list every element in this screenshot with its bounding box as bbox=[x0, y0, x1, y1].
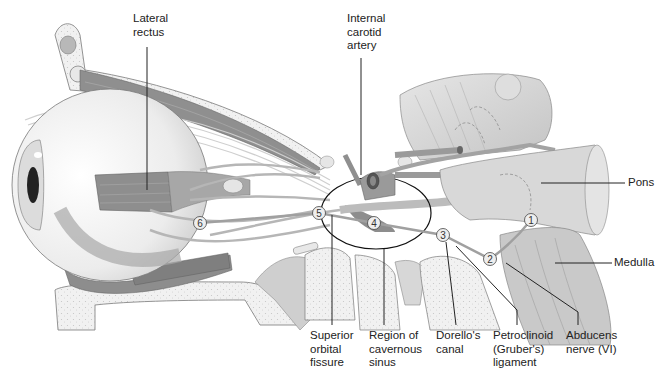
sella-bone bbox=[293, 242, 500, 330]
label-internal-carotid-artery: Internal carotid artery bbox=[347, 12, 385, 53]
marker-6: 6 bbox=[194, 217, 207, 230]
diagram-illustration: 1 2 3 4 5 6 bbox=[0, 0, 667, 378]
svg-text:4: 4 bbox=[371, 218, 377, 229]
label-medulla: Medulla bbox=[614, 256, 654, 270]
marker-3: 3 bbox=[437, 229, 450, 242]
svg-text:1: 1 bbox=[528, 215, 534, 226]
label-petroclinoid-ligament: Petroclinoid (Gruber's) ligament bbox=[493, 329, 553, 370]
label-region-of-cavernous-sinus: Region of cavernous sinus bbox=[369, 329, 422, 370]
svg-text:2: 2 bbox=[487, 254, 493, 265]
svg-text:5: 5 bbox=[316, 208, 322, 219]
svg-text:6: 6 bbox=[197, 218, 203, 229]
label-lateral-rectus: Lateral rectus bbox=[133, 12, 168, 39]
label-abducens-nerve: Abducens nerve (VI) bbox=[566, 329, 617, 356]
medulla bbox=[500, 228, 611, 346]
marker-1: 1 bbox=[525, 214, 538, 227]
ciliary-ganglion bbox=[223, 179, 243, 193]
marker-4: 4 bbox=[368, 217, 381, 230]
label-superior-orbital-fissure: Superior orbital fissure bbox=[310, 329, 353, 370]
marker-2: 2 bbox=[484, 253, 497, 266]
marker-5: 5 bbox=[313, 207, 326, 220]
label-pons: Pons bbox=[628, 176, 654, 190]
svg-text:3: 3 bbox=[440, 230, 446, 241]
label-dorellos-canal: Dorello's canal bbox=[436, 329, 480, 356]
